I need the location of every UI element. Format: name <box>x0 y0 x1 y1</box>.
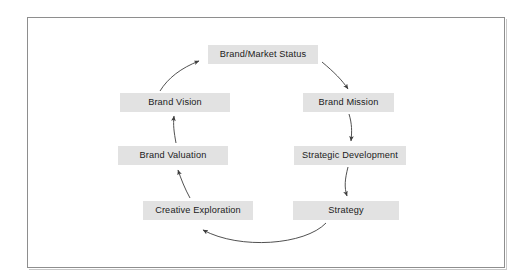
edge-status-to-mission-arrow <box>322 62 348 89</box>
node-brand-vision-label: Brand Vision <box>148 98 202 107</box>
node-brand-valuation-label: Brand Valuation <box>140 151 207 160</box>
node-brand-market-status-label: Brand/Market Status <box>220 50 307 59</box>
node-brand-valuation[interactable]: Brand Valuation <box>118 146 228 165</box>
node-brand-mission[interactable]: Brand Mission <box>303 93 394 112</box>
node-creative-exploration[interactable]: Creative Exploration <box>143 201 253 220</box>
edge-strategy-to-creative-exploration-arrow <box>203 223 326 243</box>
figure-canvas: Brand/Market Status Brand Mission Strate… <box>0 0 532 277</box>
node-creative-exploration-label: Creative Exploration <box>155 206 241 215</box>
edge-brand-valuation-to-brand-vision-arrow <box>174 116 176 143</box>
node-brand-mission-label: Brand Mission <box>318 98 378 107</box>
edge-creative-exploration-to-brand-valuation-arrow <box>178 170 190 198</box>
edge-brand-vision-to-status-arrow <box>160 61 199 91</box>
node-strategic-development[interactable]: Strategic Development <box>294 146 406 165</box>
edge-strategic-development-to-strategy-arrow <box>345 167 348 196</box>
node-strategy-label: Strategy <box>328 206 363 215</box>
edge-mission-to-strategic-development-arrow <box>349 114 352 141</box>
node-brand-market-status[interactable]: Brand/Market Status <box>208 45 318 64</box>
arrow-layer <box>0 0 532 277</box>
node-strategic-development-label: Strategic Development <box>302 151 398 160</box>
node-brand-vision[interactable]: Brand Vision <box>120 93 230 112</box>
node-strategy[interactable]: Strategy <box>293 201 399 220</box>
